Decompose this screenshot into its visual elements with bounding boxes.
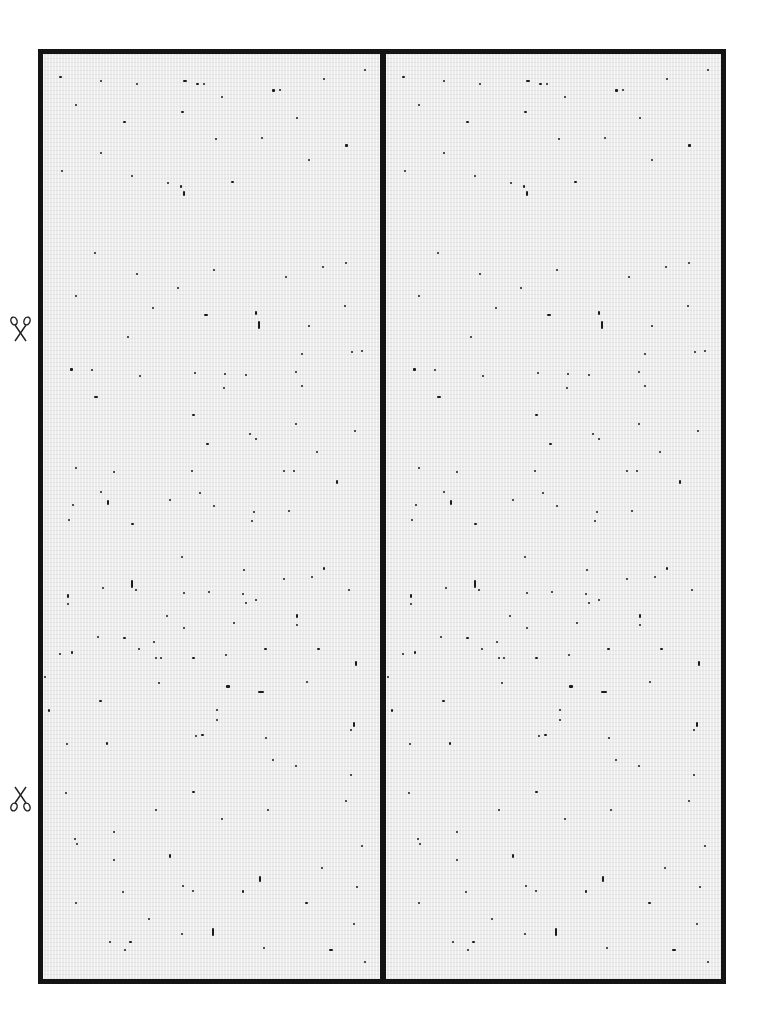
texture-speck <box>615 759 617 761</box>
texture-speck <box>160 657 162 659</box>
texture-speck <box>474 175 476 177</box>
texture-speck <box>698 661 700 666</box>
texture-speck <box>100 80 102 82</box>
texture-speck <box>251 520 253 522</box>
texture-speck <box>167 182 169 184</box>
texture-speck <box>638 423 640 425</box>
texture-speck <box>479 83 481 85</box>
texture-speck <box>419 843 421 845</box>
texture-speck <box>626 578 628 580</box>
texture-speck <box>61 170 63 172</box>
texture-speck <box>598 311 600 315</box>
texture-speck <box>263 947 265 949</box>
texture-speck <box>445 587 447 589</box>
texture-speck <box>610 809 612 811</box>
texture-speck <box>449 742 451 745</box>
texture-speck <box>245 602 247 604</box>
texture-speck <box>322 266 324 268</box>
texture-speck <box>353 923 355 925</box>
texture-speck <box>70 368 73 371</box>
texture-speck <box>201 734 204 736</box>
texture-speck <box>97 636 99 638</box>
texture-speck <box>243 569 245 571</box>
texture-speck <box>648 902 651 904</box>
texture-speck <box>510 182 512 184</box>
texture-speck <box>124 949 126 951</box>
texture-speck <box>688 800 690 802</box>
texture-speck <box>622 89 624 91</box>
texture-speck <box>404 170 406 172</box>
texture-speck <box>664 867 666 869</box>
texture-speck <box>242 593 244 595</box>
texture-speck <box>181 933 183 935</box>
texture-speck <box>206 443 209 445</box>
texture-speck <box>158 682 160 684</box>
texture-speck <box>99 700 102 702</box>
texture-speck <box>588 602 590 604</box>
texture-speck <box>308 325 310 327</box>
texture-speck <box>321 867 323 869</box>
texture-speck <box>131 580 133 588</box>
texture-speck <box>495 307 497 309</box>
texture-speck <box>288 510 290 512</box>
texture-speck <box>67 594 69 598</box>
texture-speck <box>498 657 500 659</box>
texture-speck <box>166 615 168 617</box>
texture-speck <box>183 80 187 82</box>
texture-speck <box>707 961 709 963</box>
texture-speck <box>329 949 333 951</box>
texture-speck <box>323 78 325 80</box>
texture-speck <box>592 433 594 435</box>
texture-speck <box>555 928 557 936</box>
texture-speck <box>512 499 514 501</box>
texture-speck <box>544 734 547 736</box>
texture-speck <box>44 676 46 678</box>
texture-speck <box>129 941 132 943</box>
texture-speck <box>295 423 297 425</box>
texture-speck <box>71 651 73 654</box>
texture-speck <box>568 654 570 656</box>
texture-speck <box>192 657 195 659</box>
texture-speck <box>212 928 214 936</box>
texture-speck <box>169 854 171 858</box>
texture-speck <box>679 480 681 484</box>
texture-speck <box>100 152 102 154</box>
texture-speck <box>693 774 695 776</box>
texture-speck <box>585 890 587 893</box>
texture-speck <box>566 387 568 389</box>
texture-speck <box>353 722 355 727</box>
texture-speck <box>255 311 257 315</box>
texture-speck <box>704 845 706 847</box>
texture-speck <box>586 569 588 571</box>
texture-speck <box>443 80 445 82</box>
texture-speck <box>283 470 285 472</box>
texture-speck <box>598 599 600 601</box>
texture-speck <box>659 451 661 453</box>
texture-speck <box>564 818 566 820</box>
texture-speck <box>481 648 483 650</box>
texture-speck <box>215 138 217 140</box>
texture-speck <box>317 648 320 650</box>
texture-speck <box>155 809 157 811</box>
texture-speck <box>94 396 98 398</box>
texture-speck <box>411 519 413 521</box>
texture-speck <box>547 314 551 316</box>
texture-speck <box>305 902 308 904</box>
texture-speck <box>242 890 244 893</box>
texture-speck <box>293 470 295 472</box>
texture-speck <box>649 681 651 683</box>
texture-speck <box>306 681 308 683</box>
texture-speck <box>345 144 348 147</box>
texture-speck <box>204 314 208 316</box>
texture-speck <box>498 809 500 811</box>
texture-speck <box>183 627 185 629</box>
texture-speck <box>364 961 366 963</box>
texture-speck <box>131 175 133 177</box>
texture-speck <box>221 96 223 98</box>
texture-speck <box>437 252 439 254</box>
texture-speck <box>442 700 445 702</box>
texture-speck <box>138 648 140 650</box>
texture-speck <box>539 83 542 85</box>
texture-speck <box>537 372 539 374</box>
texture-speck <box>139 375 141 377</box>
